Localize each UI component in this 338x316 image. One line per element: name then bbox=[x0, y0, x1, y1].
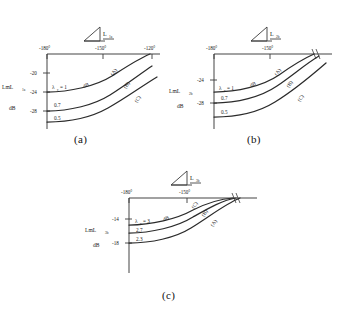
x-axis-angle-label-c: L 3b bbox=[171, 171, 201, 185]
x-axis-angle-label-a: L 1a bbox=[84, 27, 114, 41]
lambda-symbol: λ bbox=[219, 85, 222, 91]
param-label-b-C: 0.5 bbox=[221, 109, 228, 115]
y-axis-unit-c: dB bbox=[93, 242, 100, 248]
y-axis-label-sub-c: 3b bbox=[105, 231, 109, 235]
x-axis-label-sub-c: 3b bbox=[196, 179, 200, 183]
x-tick-label: -150° bbox=[262, 45, 273, 51]
curve-label-b-B: (B) bbox=[285, 79, 295, 89]
lambda-eq-value: = 3 bbox=[143, 218, 150, 224]
x-axis-label-main-a: L bbox=[103, 31, 107, 37]
x-axis-label-main-b: L bbox=[270, 31, 274, 37]
param-label-b-B: 0.7 bbox=[221, 95, 228, 101]
x-axis-label-sub-a: 1a bbox=[109, 35, 113, 39]
x-axis-angle-label-b: L 2b bbox=[251, 27, 281, 41]
param-label-a-B: 0.7 bbox=[54, 102, 61, 108]
y-tick-label: -20 bbox=[30, 70, 37, 76]
curve-label-a-C: (C) bbox=[133, 94, 143, 104]
panel-b-plot: L 2b -180° -150° -24 -28 LmL 2b dB λ c =… bbox=[169, 14, 337, 136]
caption-a: (a) bbox=[74, 133, 87, 145]
y-axis-label-main-b: LmL bbox=[169, 88, 181, 94]
y-axis-label-main-a: LmL bbox=[2, 84, 14, 90]
panel-c: L 3b -180° -150° -14 -18 LmL 3b dB λ c =… bbox=[85, 163, 265, 288]
lambda-symbol: λ bbox=[135, 218, 138, 224]
curve-label-b-A: (A) bbox=[273, 67, 283, 77]
panel-a: L 1a -180° -150° -120° -20 -24 -28 LmL 1… bbox=[0, 14, 165, 136]
x-axis-label-main-c: L bbox=[190, 175, 194, 181]
y-tick-label: -24 bbox=[30, 89, 37, 95]
panel-b: L 2b -180° -150° -24 -28 LmL 2b dB λ c =… bbox=[169, 14, 337, 136]
curve-label-c-C: (C) bbox=[190, 200, 200, 210]
param-label-a-C: 0.5 bbox=[54, 115, 61, 121]
caption-c: (c) bbox=[162, 289, 175, 301]
inline-unit-a: dB bbox=[82, 82, 90, 89]
y-axis-label-main-c: LmL bbox=[85, 227, 97, 233]
caption-b: (b) bbox=[247, 133, 261, 145]
param-label-c-B: 2.7 bbox=[136, 227, 143, 233]
inline-unit-b: dB bbox=[249, 81, 257, 88]
y-tick-label: -18 bbox=[112, 240, 119, 246]
x-tick-label: -180° bbox=[121, 189, 132, 195]
x-tick-label: -180° bbox=[206, 45, 217, 51]
y-axis-unit-a: dB bbox=[9, 105, 16, 111]
y-axis-label-sub-a: 1a bbox=[22, 88, 26, 92]
y-axis-label-sub-b: 2b bbox=[189, 92, 193, 96]
lambda-eq-value: = 1 bbox=[60, 84, 67, 90]
y-tick-label: -28 bbox=[197, 100, 204, 106]
curve-label-c-A: (A) bbox=[209, 218, 219, 228]
lambda-symbol: λ bbox=[52, 84, 55, 90]
y-tick-label: -28 bbox=[30, 108, 37, 114]
curve-label-b-C: (C) bbox=[296, 93, 306, 103]
y-tick-label: -14 bbox=[112, 216, 119, 222]
x-tick-label: -180° bbox=[39, 45, 50, 51]
param-label-c-A: 2.3 bbox=[136, 236, 143, 242]
panel-c-plot: L 3b -180° -150° -14 -18 LmL 3b dB λ c =… bbox=[85, 163, 265, 288]
x-tick-label: -150° bbox=[95, 45, 106, 51]
inline-unit-c: dB bbox=[163, 215, 171, 222]
y-axis-unit-b: dB bbox=[177, 103, 184, 109]
x-axis-label-sub-b: 2b bbox=[276, 35, 280, 39]
lambda-eq-value: = 1 bbox=[227, 85, 234, 91]
x-tick-label: -120° bbox=[144, 45, 155, 51]
y-tick-label: -24 bbox=[197, 77, 204, 83]
x-tick-label: -150° bbox=[179, 189, 190, 195]
panel-a-plot: L 1a -180° -150° -120° -20 -24 -28 LmL 1… bbox=[0, 14, 165, 136]
